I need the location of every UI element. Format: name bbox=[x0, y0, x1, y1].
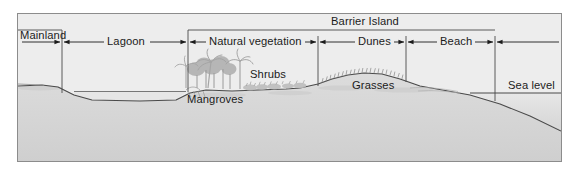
label-dunes: Dunes bbox=[355, 35, 394, 47]
label-barrier-island: Barrier Island bbox=[331, 15, 399, 27]
label-grasses: Grasses bbox=[352, 79, 394, 91]
label-lagoon: Lagoon bbox=[104, 35, 148, 47]
label-shrubs: Shrubs bbox=[250, 68, 286, 80]
label-sea-level: Sea level bbox=[508, 79, 555, 91]
label-beach: Beach bbox=[437, 35, 475, 47]
profile-drawing bbox=[0, 0, 580, 169]
label-natural-vegetation: Natural vegetation bbox=[206, 35, 305, 47]
label-mangroves: Mangroves bbox=[187, 93, 243, 105]
vegetation-trees bbox=[175, 49, 253, 89]
coastal-profile-figure: Barrier Island Mainland Lagoon Natural v… bbox=[0, 0, 580, 169]
label-mainland: Mainland bbox=[20, 29, 66, 41]
